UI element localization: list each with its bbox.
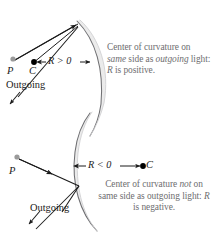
label-radius-bottom: R < 0 <box>88 160 111 171</box>
caption-bottom-r-symbol: R <box>204 191 210 201</box>
label-outgoing-bottom: Outgoing <box>30 203 69 213</box>
point-p-bottom-dot <box>14 154 19 159</box>
caption-positive-radius: Center of curvature on same side as outg… <box>107 42 211 77</box>
caption-top-mid: side as <box>126 54 156 64</box>
caption-bottom-not: not <box>179 179 191 189</box>
label-point-c-top: C <box>29 66 36 77</box>
caption-top-positive: is positive. <box>113 65 155 75</box>
caption-bottom-light: light: <box>182 191 204 201</box>
label-outgoing-top: Outgoing <box>6 80 45 90</box>
caption-negative-radius: Center of curvature not on same side as … <box>97 179 211 214</box>
caption-bottom-negative: is negative. <box>133 202 175 212</box>
label-point-c-bottom: C <box>146 160 153 171</box>
caption-top-light: light: <box>191 54 211 64</box>
point-p-top-dot <box>10 56 15 61</box>
caption-bottom-on: on <box>191 179 203 189</box>
label-point-p-top: P <box>7 66 13 77</box>
caption-top-outgoing: outgoing <box>156 54 189 64</box>
label-radius-top: R > 0 <box>48 56 71 67</box>
mirror-arc-top <box>77 20 106 136</box>
label-point-p-bottom: P <box>9 166 15 177</box>
caption-bottom-line1: Center of curvature <box>105 179 179 189</box>
caption-top-same: same <box>107 54 126 64</box>
caption-top-line1: Center of curvature on <box>107 42 191 52</box>
caption-bottom-line2: same side as outgoing <box>98 191 180 201</box>
optics-sign-convention-figure: P C R > 0 Outgoing P C R < 0 Outgoing Ce… <box>0 0 211 247</box>
incident-ray-bottom <box>19 159 79 186</box>
